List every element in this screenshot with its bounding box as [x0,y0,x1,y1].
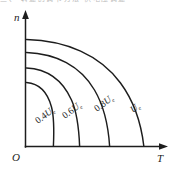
axis-labels-group: n T O [12,11,164,164]
curve-0-8-un [27,53,110,147]
curve-label-un: Ue [128,101,143,116]
curve-un [27,40,144,147]
x-axis-label: T [157,152,164,164]
origin-label: O [12,151,20,163]
curve-labels-group: 0.4Ue 0.6Ue 0.8Ue Ue [33,93,143,127]
speed-torque-plot: n T O 0.4Ue 0.6Ue 0.8Ue [0,0,173,170]
svg-text:0.6Ue: 0.6Ue [60,100,84,122]
svg-text:Ue: Ue [128,101,143,116]
curves-group [27,40,144,147]
curve-label-0-6-un: 0.6Ue [60,100,84,122]
x-axis-arrowhead [159,143,168,150]
y-axis-arrowhead [22,10,29,19]
y-axis-label: n [14,11,20,23]
axes-group [22,10,168,150]
figure-container: 二、 转速的调节方法 供电压调速 n T O 0.4Ue [0,0,173,170]
